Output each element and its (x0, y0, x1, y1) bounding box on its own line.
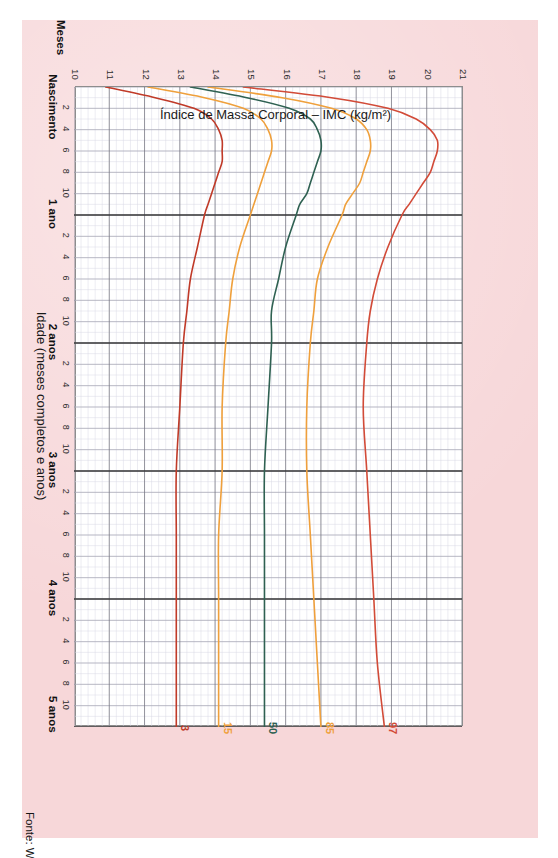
percentile-curve-label: 3 (179, 725, 191, 731)
percentile-curve-label: 15 (222, 722, 234, 734)
y-axis-tick-label: 13 (175, 54, 186, 80)
growth-chart: 101112131415161718192021 246810246810246… (41, 0, 471, 784)
x-axis-month-tick-label: 6 (61, 147, 71, 152)
percentile-curve-label: 85 (324, 722, 336, 734)
plot-area (75, 86, 463, 726)
grid-and-curves (74, 87, 462, 727)
plot-wrapper: 101112131415161718192021 246810246810246… (75, 86, 463, 726)
y-axis-tick-label: 16 (281, 54, 292, 80)
x-axis-month-tick-label: 4 (61, 382, 71, 387)
y-axis-tick-label: 14 (211, 54, 222, 80)
x-axis-month-tick-label: 8 (61, 169, 71, 174)
x-axis-month-tick-label: 2 (61, 617, 71, 622)
percentile-curve-label: 50 (267, 722, 279, 734)
x-axis-month-tick-label: 10 (61, 188, 71, 198)
page-root: 101112131415161718192021 246810246810246… (0, 0, 558, 858)
x-axis-month-tick-label: 4 (61, 126, 71, 131)
y-axis-tick-label: 20 (422, 54, 433, 80)
x-axis-month-tick-label: 6 (61, 659, 71, 664)
percentile-curve-label: 97 (387, 722, 399, 734)
x-axis-month-tick-label: 10 (61, 700, 71, 710)
source-attribution: Fonte: WHO Child Growth Standards, 2006 … (24, 812, 36, 858)
x-axis-month-tick-label: 8 (61, 681, 71, 686)
x-axis-month-tick-label: 2 (61, 489, 71, 494)
x-axis-month-tick-label: 8 (61, 297, 71, 302)
y-axis-tick-label: 18 (352, 54, 363, 80)
x-axis-month-tick-label: 4 (61, 254, 71, 259)
x-axis-month-tick-label: 10 (61, 316, 71, 326)
y-axis-tick-label: 15 (246, 54, 257, 80)
y-axis-tick-label: 11 (105, 54, 116, 80)
y-axis-tick-label: 21 (458, 54, 469, 80)
x-axis-month-tick-label: 6 (61, 531, 71, 536)
x-axis-month-tick-label: 4 (61, 510, 71, 515)
months-word-label: Meses (55, 20, 67, 55)
x-axis-month-tick-label: 10 (61, 444, 71, 454)
x-axis-month-tick-label: 10 (61, 572, 71, 582)
x-axis-month-tick-label: 6 (61, 275, 71, 280)
y-axis-tick-label: 19 (387, 54, 398, 80)
x-axis-title: Idade (meses completos e anos) (34, 86, 49, 726)
x-axis-month-tick-label: 2 (61, 233, 71, 238)
y-axis-tick-label: 17 (316, 54, 327, 80)
x-axis-month-tick-label: 4 (61, 638, 71, 643)
x-axis-month-tick-label: 8 (61, 553, 71, 558)
x-axis-month-tick-label: 8 (61, 425, 71, 430)
x-axis-month-tick-label: 2 (61, 361, 71, 366)
y-axis-tick-label: 10 (70, 54, 81, 80)
x-axis-month-tick-label: 6 (61, 403, 71, 408)
y-axis-tick-label: 12 (140, 54, 151, 80)
y-axis-title: Índice de Massa Corporal – IMC (kg/m²) (0, 107, 556, 122)
